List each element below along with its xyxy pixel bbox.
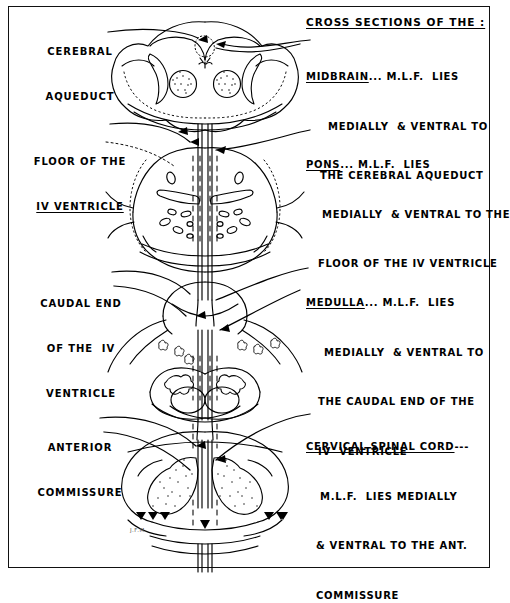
label-cerebral-aqueduct-0: CEREBRAL: [30, 44, 130, 59]
annotation-term-cervical-spinal-cord: CERVICAL SPINAL CORD: [306, 441, 455, 452]
label-caudal-1: OF THE IV: [28, 341, 134, 356]
annotation-line-midbrain-0: M.L.F. LIES: [386, 71, 459, 82]
annotation-dots-midbrain: ...: [369, 71, 383, 82]
label-ant-comm-1: COMMISSURE: [26, 485, 134, 500]
annotation-dots-pons: ...: [340, 159, 354, 170]
artist-signature: J.F.M.: [130, 527, 147, 533]
annotation-cervical-spinal-cord: CERVICAL SPINAL CORD--- M.L.F. LIES MEDI…: [306, 406, 469, 603]
annotation-line-cord-1: & VENTRAL TO THE ANT.: [306, 538, 469, 555]
label-anterior-commissure: ANTERIOR COMMISSURE: [26, 410, 134, 515]
mlf-tract: [193, 124, 217, 572]
label-floor-iv-0: FLOOR OF THE: [28, 154, 132, 169]
annotation-dots-medulla: ...: [365, 297, 379, 308]
annotation-dots-cervical-spinal-cord: ---: [455, 441, 470, 452]
annotation-line-cord-0: M.L.F. LIES MEDIALLY: [306, 489, 469, 506]
annotation-line-medulla-0: M.L.F. LIES: [382, 297, 455, 308]
annotation-line-pons-1: MEDIALLY & VENTRAL TO THE: [306, 207, 510, 224]
spinal-cord-section: [122, 432, 289, 554]
header-title: CROSS SECTIONS OF THE :: [306, 16, 485, 28]
annotation-term-pons: PONS: [306, 159, 340, 170]
annotation-term-midbrain: MIDBRAIN: [306, 71, 369, 82]
label-ant-comm-0: ANTERIOR: [26, 440, 134, 455]
label-floor-iv-ventricle: FLOOR OF THE IV VENTRICLE: [28, 124, 132, 229]
label-cerebral-aqueduct: CEREBRAL AQUEDUCT: [30, 14, 130, 119]
annotation-line-cord-2: COMMISSURE: [306, 588, 469, 603]
label-cerebral-aqueduct-1: AQUEDUCT: [30, 89, 130, 104]
annotation-term-medulla: MEDULLA: [306, 297, 365, 308]
label-caudal-0: CAUDAL END: [28, 296, 134, 311]
annotation-line-medulla-1: MEDIALLY & VENTRAL TO: [306, 345, 484, 362]
pons-section: [106, 148, 304, 272]
label-floor-iv-1: IV VENTRICLE: [28, 199, 132, 214]
label-caudal-2: VENTRICLE: [28, 386, 134, 401]
label-caudal-end-iv-ventricle: CAUDAL END OF THE IV VENTRICLE: [28, 266, 134, 416]
annotation-line-pons-0: M.L.F. LIES: [358, 159, 431, 170]
